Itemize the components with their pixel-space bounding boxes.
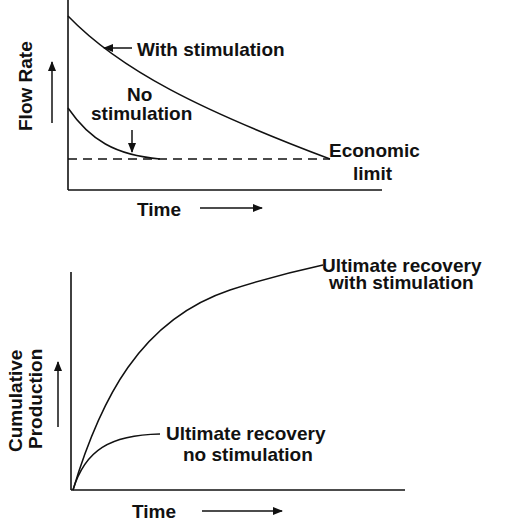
economic-limit-label-line2: limit: [353, 163, 393, 184]
ur-no-stimulation-line1: Ultimate recovery: [166, 423, 326, 444]
ur-with-stimulation-line2: with stimulation: [328, 272, 474, 293]
cumulative-no-stimulation-curve: [73, 434, 160, 490]
top-y-axis-label: Flow Rate: [15, 41, 36, 131]
bottom-x-axis-label: Time: [132, 501, 176, 522]
bottom-y-axis-label-line1: Cumulative: [5, 350, 26, 452]
flow-rate-panel: Flow Rate With stimulation No stimulatio…: [15, 0, 420, 220]
ur-no-stimulation-line2: no stimulation: [183, 444, 313, 465]
cumulative-production-panel: Cumulative Production Ultimate recovery …: [5, 255, 482, 522]
with-stimulation-label: With stimulation: [137, 39, 285, 60]
diagram-canvas: Flow Rate With stimulation No stimulatio…: [0, 0, 506, 522]
no-stimulation-label-line2: stimulation: [91, 103, 192, 124]
bottom-y-axis-label-line2: Production: [25, 349, 46, 449]
no-stimulation-label-line1: No: [127, 84, 152, 105]
economic-limit-label-line1: Economic: [329, 140, 420, 161]
top-x-axis-label: Time: [137, 199, 181, 220]
with-stimulation-curve: [68, 16, 330, 159]
